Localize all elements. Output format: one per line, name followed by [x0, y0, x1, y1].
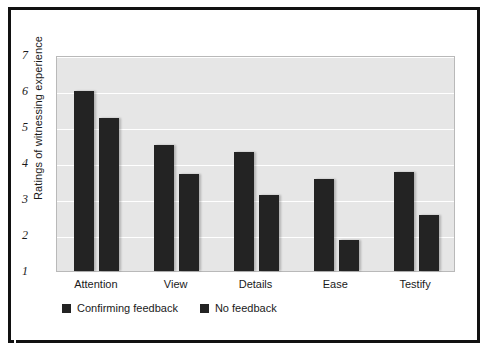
y-axis-tick-label: 3: [0, 193, 28, 205]
bar: [99, 118, 119, 271]
y-axis-title: Ratings of witnessing experience: [32, 18, 44, 218]
plot-area: [56, 56, 455, 272]
legend-item: Confirming feedback: [62, 302, 178, 314]
bar: [339, 240, 359, 271]
x-axis-tick-label: Testify: [370, 278, 460, 290]
bar: [179, 174, 199, 271]
y-axis-tick-label: 2: [0, 229, 28, 241]
legend-swatch-no-feedback: [200, 304, 209, 313]
y-axis-tick-label: 1: [0, 265, 28, 277]
legend-label: Confirming feedback: [77, 302, 178, 314]
legend-label: No feedback: [215, 302, 277, 314]
y-axis-tick-label: 5: [0, 121, 28, 133]
bar: [154, 145, 174, 271]
x-axis-tick-label: Attention: [51, 278, 141, 290]
gridline: [57, 93, 454, 94]
figure-border-inner-gap: [14, 12, 16, 344]
bar: [74, 91, 94, 271]
chart-legend: Confirming feedbackNo feedback: [62, 302, 277, 314]
y-axis-tick-label: 6: [0, 85, 28, 97]
bar: [394, 172, 414, 271]
x-axis-tick-label: Ease: [290, 278, 380, 290]
bar: [419, 215, 439, 271]
figure: Ratings of witnessing experience 1234567…: [0, 0, 490, 350]
y-axis-tick-label: 7: [0, 49, 28, 61]
gridline: [57, 57, 454, 58]
bar: [259, 195, 279, 271]
x-axis-tick-label: View: [131, 278, 221, 290]
x-axis-tick-label: Details: [211, 278, 301, 290]
legend-item: No feedback: [200, 302, 277, 314]
bar: [314, 179, 334, 271]
legend-swatch-confirming: [62, 304, 71, 313]
bar: [234, 152, 254, 271]
y-axis-tick-label: 4: [0, 157, 28, 169]
